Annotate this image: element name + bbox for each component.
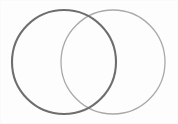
- two-circle-diagram: [0, 0, 178, 124]
- canvas-background: [0, 0, 178, 124]
- figure-canvas: [0, 0, 178, 124]
